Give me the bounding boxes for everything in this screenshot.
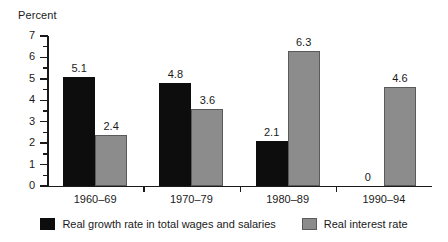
y-tick-label: 2 xyxy=(15,137,35,148)
x-tick xyxy=(143,186,145,192)
y-tick-label: 7 xyxy=(15,30,35,41)
y-tick-label: 4 xyxy=(15,94,35,105)
bar-value-label: 4.8 xyxy=(151,69,199,80)
bar xyxy=(95,135,127,186)
legend-item-label: Real growth rate in total wages and sala… xyxy=(62,218,275,230)
category-label: 1990–94 xyxy=(336,193,432,205)
y-tick-label: 0 xyxy=(15,180,35,191)
category-label: 1970–79 xyxy=(143,193,239,205)
bar-chart: Percent 01234567 5.12.44.83.62.16.304.6 … xyxy=(0,0,448,242)
legend-item-real-interest-rate[interactable]: Real interest rate xyxy=(302,218,408,230)
legend-item-label: Real interest rate xyxy=(324,218,408,230)
x-tick xyxy=(336,186,338,192)
y-axis-title: Percent xyxy=(18,9,57,21)
bar-value-label: 5.1 xyxy=(55,63,103,74)
bar-value-label: 2.1 xyxy=(248,127,296,138)
category-label: 1980–89 xyxy=(240,193,336,205)
bar xyxy=(256,141,288,186)
gray-swatch-icon xyxy=(302,218,317,230)
category-label: 1960–69 xyxy=(47,193,143,205)
bar-value-label: 6.3 xyxy=(280,37,328,48)
bar-value-label: 3.6 xyxy=(183,95,231,106)
legend-item-real-growth-rate[interactable]: Real growth rate in total wages and sala… xyxy=(40,218,275,230)
y-tick-label: 3 xyxy=(15,116,35,127)
x-tick xyxy=(240,186,242,192)
bar xyxy=(191,109,223,186)
bar-value-label: 2.4 xyxy=(87,121,135,132)
y-tick-label: 6 xyxy=(15,51,35,62)
bar-value-label: 4.6 xyxy=(376,73,424,84)
bar-value-label: 0 xyxy=(344,172,392,183)
black-swatch-icon xyxy=(40,218,55,230)
chart-legend: Real growth rate in total wages and sala… xyxy=(0,214,448,234)
bar xyxy=(288,51,320,186)
y-tick-label: 5 xyxy=(15,73,35,84)
y-tick-label: 1 xyxy=(15,159,35,170)
